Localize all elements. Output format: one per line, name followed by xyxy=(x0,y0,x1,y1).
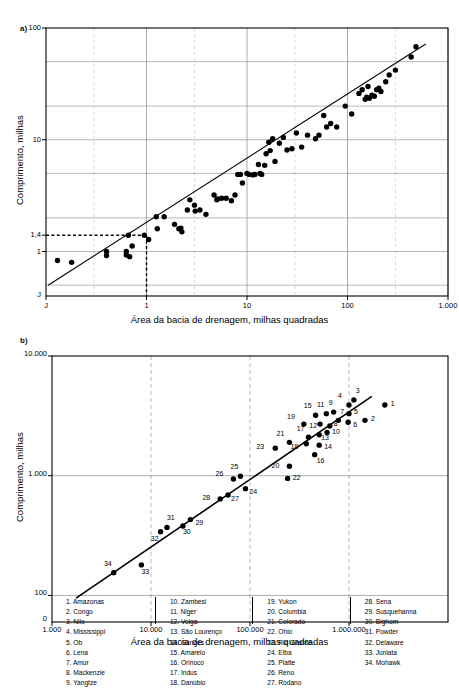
data-point xyxy=(378,89,383,94)
regression-line xyxy=(48,44,426,285)
data-point xyxy=(129,243,134,248)
data-point-label-12: 12 xyxy=(309,422,317,429)
data-point xyxy=(305,132,310,137)
data-point-label-3: 3 xyxy=(356,387,360,394)
data-point-river-34 xyxy=(111,570,116,575)
data-point xyxy=(359,87,364,92)
data-point-river-22 xyxy=(285,476,290,481)
legend-item: 27. Ródano xyxy=(267,678,349,688)
x-tick-label: 1.000 xyxy=(22,625,82,634)
data-point-label-16: 16 xyxy=(317,457,325,464)
data-point-label-29: 29 xyxy=(195,519,203,526)
data-point-river-28 xyxy=(217,496,222,501)
data-point xyxy=(229,198,234,203)
data-point-river-2 xyxy=(362,418,367,423)
data-point-river-23 xyxy=(273,445,278,450)
data-point-label-15: 15 xyxy=(304,402,312,409)
data-point-label-30: 30 xyxy=(183,528,191,535)
data-point xyxy=(104,253,109,258)
data-point xyxy=(127,254,132,259)
legend-item: 1. Amazonas xyxy=(66,597,155,607)
data-point xyxy=(281,135,286,140)
data-point xyxy=(252,172,257,177)
data-point xyxy=(259,172,264,177)
data-point xyxy=(343,103,348,108)
legend-item: 18. Danúbio xyxy=(170,678,252,688)
legend-item: 10. Zambesi xyxy=(170,597,252,607)
x-tick-label: J xyxy=(16,301,76,310)
data-point-label-8: 8 xyxy=(334,420,338,427)
legend-item: 16. Orinoco xyxy=(170,658,252,668)
data-point-river-26 xyxy=(231,476,236,481)
data-point-label-6: 6 xyxy=(353,421,357,428)
legend-item: 7. Amur xyxy=(66,658,155,668)
x-tick-label: 1 xyxy=(117,301,177,310)
data-point xyxy=(272,159,277,164)
y-axis-origin-label: J xyxy=(0,290,41,299)
data-point-label-31: 31 xyxy=(167,514,175,521)
data-point-river-11 xyxy=(324,411,329,416)
data-point xyxy=(277,141,282,146)
legend-item: 8. Mackenzie xyxy=(66,668,155,678)
data-point-river-1 xyxy=(382,402,387,407)
y-tick-label: 1,4 xyxy=(0,230,41,239)
data-point xyxy=(383,79,388,84)
panel-a-yaxis-title: Comprimento, milhas xyxy=(14,115,25,205)
data-point xyxy=(192,202,197,207)
data-point-label-34: 34 xyxy=(104,560,112,567)
data-point-label-26: 26 xyxy=(216,470,224,477)
data-point xyxy=(126,232,131,237)
data-point xyxy=(267,148,272,153)
panel-a: a) Área da bacia de drenagem, milhas qua… xyxy=(0,0,459,332)
data-point xyxy=(256,162,261,167)
data-point-label-22: 22 xyxy=(293,474,301,481)
data-point-river-21 xyxy=(287,440,292,445)
data-point xyxy=(232,192,237,197)
data-point-river-19 xyxy=(301,421,306,426)
legend-column-1: 1. Amazonas2. Congo3. Nilo4. Mississippi… xyxy=(52,597,155,624)
data-point-label-11: 11 xyxy=(317,401,324,408)
legend-item: 11. Niger xyxy=(170,607,252,617)
legend-item: 29. Susquehanna xyxy=(365,607,447,617)
data-point xyxy=(365,84,370,89)
data-point xyxy=(155,226,160,231)
legend-item: 33. Juniata xyxy=(365,648,447,658)
legend-column-4: 28. Sena29. Susquehanna30. Bighorn31. Po… xyxy=(350,597,447,624)
data-point xyxy=(172,222,177,227)
data-point xyxy=(289,146,294,151)
legend-item: 34. Mohawk xyxy=(365,658,447,668)
data-point-river-29 xyxy=(188,517,193,522)
data-point-river-17 xyxy=(306,434,311,439)
data-point-river-4 xyxy=(346,402,351,407)
y-tick-label: 1 xyxy=(0,247,41,256)
data-point xyxy=(393,67,398,72)
data-point-label-4: 4 xyxy=(338,392,342,399)
data-point xyxy=(413,44,418,49)
data-point xyxy=(321,113,326,118)
data-point-river-32 xyxy=(158,529,163,534)
data-point xyxy=(316,132,321,137)
data-point-label-7: 7 xyxy=(340,408,344,415)
legend-item: 15. Amarelo xyxy=(170,648,252,658)
data-point xyxy=(161,214,166,219)
legend-item: 25. Platte xyxy=(267,658,349,668)
data-point-label-28: 28 xyxy=(202,494,210,501)
data-point xyxy=(349,111,354,116)
legend-item: 9. Yangtze xyxy=(66,678,155,688)
panel-b-xaxis-title: Área da bacia de drenagem, milhas quadra… xyxy=(0,636,459,647)
data-point xyxy=(334,124,339,129)
data-point xyxy=(324,124,329,129)
data-point-river-25 xyxy=(238,474,243,479)
data-point-label-23: 23 xyxy=(256,443,264,450)
y-tick-label: 1.000 xyxy=(0,469,47,478)
data-point xyxy=(185,207,190,212)
y-axis-zero-label: 0 xyxy=(0,614,47,623)
data-point-label-25: 25 xyxy=(231,463,239,470)
data-point xyxy=(187,197,192,202)
data-point-label-20: 20 xyxy=(272,462,280,469)
data-point-label-24: 24 xyxy=(249,488,257,495)
data-point-river-9 xyxy=(331,409,336,414)
x-tick-label: 10.000 xyxy=(121,625,181,634)
data-point-river-14 xyxy=(316,442,321,447)
